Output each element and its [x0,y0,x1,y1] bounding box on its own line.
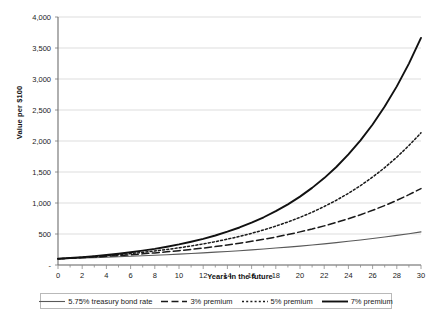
dotted-swatch [242,298,268,305]
legend-item-1[interactable]: 3% premium [161,297,232,306]
chart-legend: 5.75% treasury bond rate3% premium5% pre… [40,293,392,309]
legend-label: 5% premium [271,297,313,306]
dashed-swatch [161,298,187,305]
chart-screenshot: -5001,0001,5002,0002,5003,0003,5004,000 … [0,0,431,321]
legend-item-3[interactable]: 7% premium [322,297,393,306]
x-axis-title: Years in the future [60,272,420,281]
x-axis-tick-labels: 024681012141618202224262830 [0,0,431,280]
legend-item-2[interactable]: 5% premium [242,297,313,306]
legend-label: 7% premium [351,297,393,306]
legend-item-0[interactable]: 5.75% treasury bond rate [39,297,152,306]
y-axis-title: Value per $100 [15,68,24,158]
legend-label: 3% premium [190,297,232,306]
solid-thin-swatch [39,298,65,305]
legend-label: 5.75% treasury bond rate [68,297,152,306]
solid-thick-swatch [322,298,348,305]
